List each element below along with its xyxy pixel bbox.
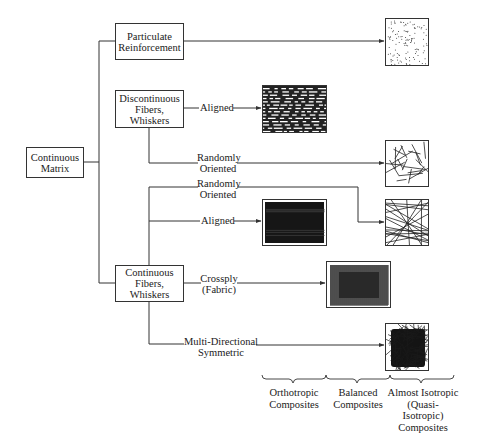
g1-line1: Orthotropic xyxy=(260,387,328,399)
multi-directional-illustration xyxy=(385,323,429,371)
continuous-matrix-box: ContinuousMatrix xyxy=(26,147,84,178)
cont-random-label: RandomlyOriented xyxy=(197,178,239,200)
crossply-line1: Crossply xyxy=(200,273,238,284)
balanced-composites-label: BalancedComposites xyxy=(326,387,390,410)
quasi-isotropic-composites-label: Almost Isotropic(Quasi-Isotropic)Composi… xyxy=(387,387,459,433)
disc-aligned-label: Aligned xyxy=(200,102,233,113)
multi-line1: Multi-Directional xyxy=(183,336,259,347)
root-label-line1: Continuous xyxy=(31,152,79,163)
orthotropic-composites-label: OrthotropicComposites xyxy=(260,387,328,410)
cont-line2: Fibers, xyxy=(125,278,173,289)
crossply-label: Crossply(Fabric) xyxy=(200,273,238,295)
cont-random-line2: Oriented xyxy=(197,189,239,200)
g2-line2: Composites xyxy=(326,399,390,411)
root-label-line2: Matrix xyxy=(31,163,79,174)
cont-line3: Whiskers xyxy=(125,289,173,300)
disc-random-line2: Oriented xyxy=(197,163,239,174)
g1-line2: Composites xyxy=(260,399,328,411)
particulate-line2: Reinforcement xyxy=(118,42,180,53)
disc-line1: Discontinuous xyxy=(119,93,180,104)
g3-line3: Composites xyxy=(387,422,459,433)
cont-line1: Continuous xyxy=(125,267,173,278)
g2-line1: Balanced xyxy=(326,387,390,399)
discontinuous-fibers-box: DiscontinuousFibers,Whiskers xyxy=(115,90,184,128)
long-random-fibers-illustration xyxy=(385,199,429,246)
crossply-fabric-illustration xyxy=(326,261,391,308)
disc-line3: Whiskers xyxy=(119,115,180,126)
multi-directional-label: Multi-DirectionalSymmetric xyxy=(183,336,259,358)
disc-random-line1: Randomly xyxy=(197,152,239,163)
group-braces xyxy=(262,375,454,383)
short-random-fibers-illustration xyxy=(385,140,429,187)
short-aligned-fibers-illustration xyxy=(262,85,327,133)
particulate-line1: Particulate xyxy=(118,31,180,42)
cont-random-line1: Randomly xyxy=(197,178,239,189)
disc-random-label: RandomlyOriented xyxy=(197,152,239,174)
multi-line2: Symmetric xyxy=(183,347,259,358)
particles-illustration xyxy=(385,18,429,66)
g3-line2: (Quasi-Isotropic) xyxy=(387,399,459,422)
disc-line2: Fibers, xyxy=(119,104,180,115)
long-aligned-fibers-illustration xyxy=(262,199,327,246)
cont-aligned-label: Aligned xyxy=(201,215,234,226)
continuous-fibers-box: ContinuousFibers,Whiskers xyxy=(115,265,184,302)
g3-line1: Almost Isotropic xyxy=(387,387,459,399)
crossply-line2: (Fabric) xyxy=(200,284,238,295)
particulate-reinforcement-box: ParticulateReinforcement xyxy=(115,23,184,60)
